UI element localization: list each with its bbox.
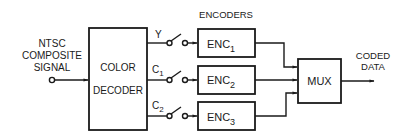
switch-blade-icon — [171, 34, 181, 41]
signal-label-y: Y — [155, 29, 162, 40]
enc3-to-mux-wire — [255, 93, 297, 116]
input-label-line-1: NTSC — [38, 38, 65, 49]
output-label-line-1: CODED — [356, 50, 390, 61]
decoder-label-line-1: COLOR — [100, 62, 136, 73]
mux-label: MUX — [307, 75, 332, 87]
channel-c2: C2 — [147, 100, 197, 119]
decoder-label-line-2: DECODER — [93, 85, 143, 96]
output-label-line-2: DATA — [361, 61, 386, 72]
switch-contact-icon — [183, 41, 188, 46]
block-diagram: NTSC COMPOSITE SIGNAL COLOR DECODER ENCO… — [0, 0, 404, 140]
switch-contact-icon — [183, 78, 188, 83]
signal-label-c2: C2 — [152, 100, 164, 114]
input-label-line-3: SIGNAL — [34, 62, 71, 73]
channel-c1: C1 — [147, 64, 197, 83]
encoder-3: ENC3 — [198, 102, 255, 130]
switch-blade-icon — [171, 107, 181, 114]
channel-y: Y — [147, 29, 197, 46]
input-terminal-icon — [49, 77, 54, 82]
switch-contact-icon — [183, 114, 188, 119]
switch-blade-icon — [171, 71, 181, 78]
signal-label-c1: C1 — [152, 64, 164, 78]
input-label: NTSC COMPOSITE SIGNAL — [22, 38, 82, 73]
enc1-to-mux-wire — [255, 43, 297, 67]
encoder-2: ENC2 — [198, 66, 255, 94]
color-decoder-block — [89, 28, 147, 130]
encoder-1: ENC1 — [198, 29, 255, 57]
input-label-line-2: COMPOSITE — [22, 50, 82, 61]
encoders-heading: ENCODERS — [199, 9, 253, 20]
